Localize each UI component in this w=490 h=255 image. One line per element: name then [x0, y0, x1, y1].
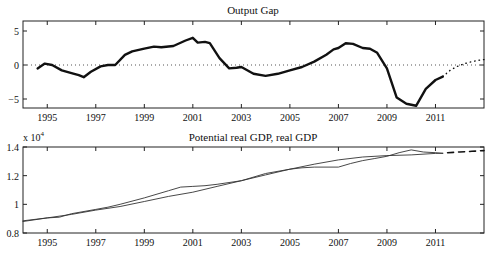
x-tick-label: 2001: [183, 237, 203, 248]
axis-ticks-bottom: 1995199719992001200320052007200920111.41…: [7, 142, 485, 248]
x-tick-label: 2003: [231, 112, 251, 123]
series-line: [23, 150, 443, 222]
multiplier-exponent: 4: [41, 130, 45, 138]
y-multiplier-label: x 104: [23, 130, 45, 143]
x-tick-label: 2005: [280, 237, 300, 248]
y-tick-label: 0: [14, 60, 19, 71]
figure: Output Gap 19951997199920012003200520072…: [0, 0, 490, 255]
series-line: [38, 38, 443, 106]
y-tick-label: 1.4: [7, 142, 20, 153]
y-tick-label: −5: [8, 94, 19, 105]
x-tick-label: 2005: [280, 112, 300, 123]
panel-title-gdp: Potential real GDP, real GDP: [189, 131, 318, 143]
x-tick-label: 1997: [86, 237, 106, 248]
plot-frame-bottom: [23, 147, 484, 233]
x-tick-label: 2011: [426, 237, 446, 248]
x-tick-label: 1995: [37, 112, 57, 123]
x-tick-label: 1999: [134, 237, 154, 248]
x-tick-label: 2007: [328, 112, 348, 123]
chart-canvas: Output Gap 19951997199920012003200520072…: [0, 0, 490, 255]
x-tick-label: 2009: [377, 237, 397, 248]
x-tick-label: 2011: [426, 112, 446, 123]
series-line: [448, 151, 484, 153]
panel-title-output-gap: Output Gap: [227, 4, 279, 16]
x-tick-label: 2003: [231, 237, 251, 248]
series-line: [443, 60, 484, 77]
series-line: [23, 153, 443, 221]
series-gdp: [23, 150, 484, 222]
plot-frame-top: [23, 21, 484, 108]
y-tick-label: 1: [14, 199, 19, 210]
multiplier-base: x 10: [23, 132, 41, 143]
output-gap-panel: Output Gap 19951997199920012003200520072…: [8, 4, 484, 123]
series-output-gap: [23, 38, 484, 106]
x-tick-label: 1999: [134, 112, 154, 123]
gdp-panel: Potential real GDP, real GDP x 104 19951…: [7, 130, 485, 248]
y-tick-label: 5: [14, 26, 19, 37]
x-tick-label: 1995: [37, 237, 57, 248]
y-tick-label: 0.8: [7, 228, 20, 239]
x-tick-label: 1997: [86, 112, 106, 123]
x-tick-label: 2001: [183, 112, 203, 123]
y-tick-label: 1.2: [7, 171, 20, 182]
x-tick-label: 2007: [328, 237, 348, 248]
x-tick-label: 2009: [377, 112, 397, 123]
